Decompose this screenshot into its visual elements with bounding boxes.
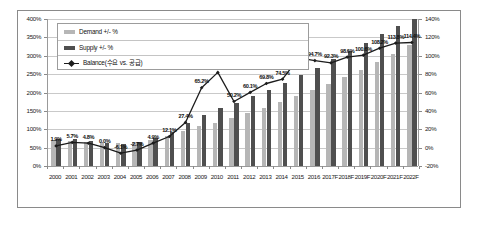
x-axis-tickmark (306, 166, 307, 169)
x-axis-tickmark (209, 166, 210, 169)
balance-point-marker (103, 146, 107, 150)
y-axis-right-tick-label: -20% (425, 163, 451, 169)
x-axis-tickmark (47, 166, 48, 169)
balance-point-marker (119, 151, 123, 155)
x-axis-tick-label: 2012 (243, 174, 255, 180)
balance-data-label: 98.6% (340, 49, 354, 55)
x-axis-tick-label: 2016 (308, 174, 320, 180)
balance-data-label: 108.2% (371, 40, 388, 46)
x-axis-tickmark (257, 166, 258, 169)
balance-point-marker (345, 55, 349, 59)
balance-point-marker (378, 46, 382, 50)
x-axis-tick-label: 2002 (81, 174, 93, 180)
x-axis-tickmark (322, 166, 323, 169)
x-axis-tick-label: 2015 (292, 174, 304, 180)
balance-data-label: 92.3% (324, 55, 338, 61)
x-axis-tickmark (128, 166, 129, 169)
balance-point-marker (329, 61, 333, 65)
y-axis-left-tick-label: 350% (15, 34, 41, 40)
balance-data-label: 12.1% (162, 128, 176, 134)
chart-figure: 0%50%100%150%200%250%300%350%400% -20%0%… (0, 0, 478, 227)
legend-item-supply: Supply +/- % (58, 40, 308, 56)
legend-item-demand: Demand +/- % (58, 24, 308, 40)
x-axis-tick-label: 2004 (114, 174, 126, 180)
x-axis-tickmark (241, 166, 242, 169)
x-axis-tick-label: 2013 (259, 174, 271, 180)
balance-point-marker (70, 141, 74, 145)
balance-point-marker (410, 41, 414, 45)
y-axis-right-tick-label: 80% (425, 71, 451, 77)
y-axis-right-tick-label: 140% (425, 16, 451, 22)
legend-label-supply: Supply +/- % (79, 45, 113, 51)
y-axis-left-tick-label: 100% (15, 126, 41, 132)
balance-data-label: 74.5% (275, 71, 289, 77)
x-axis-tickmark (63, 166, 64, 169)
x-axis-tick-label: 2017F (322, 174, 338, 180)
supply-swatch-icon (64, 46, 75, 50)
x-axis-tickmark (403, 166, 404, 169)
balance-data-label: 69.8% (259, 75, 273, 81)
x-axis-tickmark (176, 166, 177, 169)
balance-point-marker (151, 141, 155, 145)
balance-data-label: 27.4% (178, 114, 192, 120)
x-axis-tickmark (160, 166, 161, 169)
balance-data-label: -6.1% (114, 145, 127, 151)
balance-data-label: 94.7% (308, 53, 322, 59)
balance-point-marker (394, 41, 398, 45)
legend-label-balance: Balance(수요 vs. 공급) (83, 60, 142, 66)
balance-point-marker (87, 141, 91, 145)
balance-point-marker (135, 148, 139, 152)
x-axis-tickmark (225, 166, 226, 169)
x-axis-tick-label: 2021F (387, 174, 403, 180)
balance-data-label: 114.4% (404, 34, 421, 40)
balance-data-label: 50.2% (227, 93, 241, 99)
x-axis-tickmark (112, 166, 113, 169)
x-axis-tick-label: 2001 (65, 174, 77, 180)
balance-point-marker (313, 59, 317, 63)
x-axis-tickmark (338, 166, 339, 169)
x-axis-tick-label: 2000 (49, 174, 61, 180)
x-axis-tick-label: 2003 (98, 174, 110, 180)
x-axis-tickmark (370, 166, 371, 169)
demand-swatch-icon (64, 30, 75, 34)
x-axis-tick-label: 2010 (211, 174, 223, 180)
y-axis-left-tick-label: 250% (15, 71, 41, 77)
y-axis-right-tick-label: 0% (425, 145, 451, 151)
x-axis-tick-label: 2022F (403, 174, 419, 180)
x-axis-tickmark (354, 166, 355, 169)
y-axis-right-tick-label: 60% (425, 89, 451, 95)
chart-legend: Demand +/- % Supply +/- % Balance(수요 vs.… (57, 23, 309, 70)
balance-data-label: 0.0% (99, 140, 110, 146)
balance-line-marker-icon (64, 60, 79, 67)
x-axis-tick-label: 2008 (178, 174, 190, 180)
y-axis-right-tick-label: 100% (425, 53, 451, 59)
y-axis-left-tick-label: 0% (15, 163, 41, 169)
x-axis-tickmark (419, 166, 420, 169)
balance-data-label: 4.8% (83, 135, 94, 141)
x-axis-tick-label: 2005 (130, 174, 142, 180)
balance-data-label: -2.7% (131, 142, 144, 148)
y-axis-right-tick-label: 20% (425, 126, 451, 132)
x-axis-tickmark (290, 166, 291, 169)
x-axis-tickmark (193, 166, 194, 169)
x-axis-tick-label: 2007 (162, 174, 174, 180)
balance-data-label: 4.9% (147, 135, 158, 141)
balance-data-label: 5.7% (67, 134, 78, 140)
balance-data-label: 60.1% (243, 84, 257, 90)
balance-data-label: 1.9% (50, 138, 61, 144)
x-axis-tickmark (387, 166, 388, 169)
y-axis-left-tick-label: 400% (15, 16, 41, 22)
balance-point-marker (54, 144, 58, 148)
legend-label-demand: Demand +/- % (79, 29, 118, 35)
y-axis-left-tick-label: 300% (15, 53, 41, 59)
x-axis-tickmark (96, 166, 97, 169)
x-axis-tick-label: 2006 (146, 174, 158, 180)
balance-data-label: 100.6% (355, 47, 372, 53)
x-axis-tick-label: 2011 (227, 174, 239, 180)
balance-data-label: 65.2% (195, 80, 209, 86)
x-axis-tickmark (144, 166, 145, 169)
x-axis-tick-label: 2019F (355, 174, 371, 180)
x-axis-tick-label: 2009 (195, 174, 207, 180)
y-axis-right-tick-label: 120% (425, 34, 451, 40)
x-axis-tickmark (79, 166, 80, 169)
